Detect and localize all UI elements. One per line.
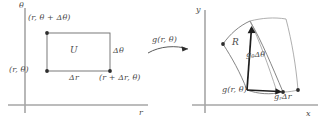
edge-label-delta-r: Δr <box>69 74 79 82</box>
r-vector-delta: Δr <box>282 92 292 101</box>
figure-canvas: θ r (r, θ + Δθ) (r, θ) (r + Δr, θ) U Δr … <box>0 0 324 129</box>
region-label-U: U <box>70 46 78 55</box>
left-axis-r-label: r <box>139 109 143 117</box>
edge-label-delta-theta: Δθ <box>113 47 124 55</box>
base-point-label: g(r, θ) <box>222 86 247 94</box>
rectangle-vertices <box>45 31 112 73</box>
region-label-R: R <box>232 38 239 47</box>
theta-vector-delta: Δθ <box>254 50 265 59</box>
corner-label-bottom-left: (r, θ) <box>9 66 29 74</box>
transformation-arrow-label: g(r, θ) <box>152 36 177 44</box>
right-axes <box>192 10 318 113</box>
rectangle-U <box>47 33 110 71</box>
corner-label-top-left: (r, θ + Δθ) <box>28 14 71 22</box>
right-axis-x-label: x <box>306 110 311 118</box>
corner-label-bottom-right: (r + Δr, θ) <box>99 74 141 82</box>
map-arrow <box>148 46 188 53</box>
tangent-vectors <box>247 26 282 95</box>
theta-tangent-vector-label: gθΔθ <box>246 51 265 59</box>
left-axes <box>8 8 148 113</box>
r-tangent-vector-label: grΔr <box>274 93 292 101</box>
left-axis-theta-label: θ <box>19 2 24 10</box>
right-axis-y-label: y <box>196 6 201 14</box>
